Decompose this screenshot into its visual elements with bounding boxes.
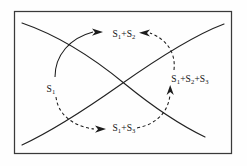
label-s1-s2-plus: +S	[121, 29, 132, 39]
label-s1-s2-s3-plus2: +S	[194, 74, 205, 84]
label-s1-s2-s3: S1+S2+S3	[171, 74, 209, 85]
arrowhead-to-s1s2s3	[167, 85, 174, 95]
label-s1-s2-s3-plus1: +S	[180, 74, 191, 84]
label-s1-s3: S1+S3	[112, 123, 136, 134]
figure-container: S1 S1+S2 S1+S3 S1+S2+S3	[0, 0, 247, 166]
label-s1-s3-sub2: 3	[132, 127, 136, 134]
arc-s1-to-s1s2	[55, 32, 93, 77]
label-s1-s2-s3-sub3: 3	[205, 78, 209, 85]
label-s1-s2: S1+S2	[112, 29, 135, 40]
label-s1-sub: 1	[52, 88, 55, 95]
diagram-canvas: S1 S1+S2 S1+S3 S1+S2+S3	[0, 0, 247, 166]
label-s1-s3-plus: +S	[121, 123, 132, 133]
label-s1: S1	[47, 84, 56, 95]
label-s1-s2-sub2: 2	[132, 33, 135, 40]
arrowhead-to-s1s2-right	[139, 29, 150, 36]
arc-s1s3-to-s1s2s3	[137, 95, 170, 128]
arrowhead-to-s1s2	[92, 29, 103, 36]
arrowhead-to-s1s3	[95, 126, 106, 133]
arc-s1-to-s1s3	[56, 97, 94, 129]
